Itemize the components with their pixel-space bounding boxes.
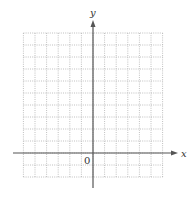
origin-label: 0 [84, 155, 90, 166]
x-axis-label: x [181, 148, 187, 159]
x-axis-arrow-icon [171, 151, 178, 156]
y-axis-arrow-icon [91, 20, 96, 27]
y-axis-label: y [89, 7, 96, 18]
coordinate-plane: x y 0 [0, 0, 195, 200]
